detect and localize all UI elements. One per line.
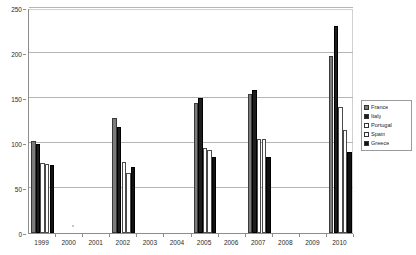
y-tick-label: 200 [11, 51, 22, 58]
gridline [29, 142, 353, 143]
bar-portugal-1999 [40, 163, 44, 233]
y-tick-label: 50 [15, 186, 22, 193]
bar-france-2010 [329, 56, 333, 233]
x-tick-label: 2005 [197, 239, 211, 246]
x-tick-mark [136, 234, 137, 237]
y-tick-label: 250 [11, 6, 22, 13]
bar-italy-1999 [36, 144, 40, 233]
y-tick-label: 100 [11, 141, 22, 148]
bar-spain-1999 [45, 164, 49, 233]
x-tick-label: 2007 [251, 239, 265, 246]
x-tick-mark [272, 234, 273, 237]
legend-swatch-icon [364, 123, 369, 128]
legend-item-label: Spain [371, 130, 385, 138]
x-tick-label: 2003 [143, 239, 157, 246]
x-tick-mark [163, 234, 164, 237]
bar-greece-1999 [50, 165, 54, 233]
x-tick-label: 2002 [116, 239, 130, 246]
x-tick-mark [109, 234, 110, 237]
legend-item-france[interactable]: France [364, 103, 409, 111]
gridline [29, 52, 353, 53]
bar-italy-2007 [252, 90, 256, 233]
bar-portugal-2007 [257, 139, 261, 233]
y-tick-label: 0 [18, 231, 22, 238]
x-tick-label: 2004 [170, 239, 184, 246]
y-tick-mark [23, 234, 26, 235]
legend-item-greece[interactable]: Greece [364, 139, 409, 147]
y-tick-mark [23, 99, 26, 100]
x-tick-label: 2006 [224, 239, 238, 246]
bar-france-2007 [248, 94, 252, 234]
bar-greece-2005 [212, 157, 216, 234]
legend-swatch-icon [364, 141, 369, 146]
y-axis: 050100150200250 [0, 9, 26, 234]
bar-portugal-2010 [338, 107, 342, 233]
legend-item-label: Greece [371, 139, 389, 147]
x-tick-mark [55, 234, 56, 237]
bar-greece-2010 [347, 152, 351, 233]
bar-italy-2005 [198, 98, 202, 233]
x-tick-mark [299, 234, 300, 237]
x-tick-label: 2001 [88, 239, 102, 246]
x-tick-label: 2008 [278, 239, 292, 246]
x-tick-label: 1999 [34, 239, 48, 246]
bar-france-2005 [194, 103, 198, 234]
bar-italy-2010 [334, 26, 338, 233]
plot-area [28, 9, 353, 234]
legend-item-label: Italy [371, 112, 381, 120]
bar-greece-2002 [131, 167, 135, 233]
x-tick-mark [245, 234, 246, 237]
gridline [29, 7, 353, 8]
y-tick-mark [23, 144, 26, 145]
x-tick-mark [353, 234, 354, 237]
bar-spain-2007 [262, 139, 266, 233]
bar-chart: 050100150200250 199920002001200220032004… [0, 0, 416, 255]
x-tick-label: 2010 [332, 239, 346, 246]
y-tick-label: 150 [11, 96, 22, 103]
chart-legend[interactable]: FranceItalyPortugalSpainGreece [361, 100, 412, 151]
chart-title-cropped [0, 0, 416, 2]
bar-greece-2007 [266, 157, 270, 234]
legend-swatch-icon [364, 105, 369, 110]
bar-france-2002 [112, 118, 116, 233]
bar-spain-2010 [343, 130, 347, 234]
legend-item-spain[interactable]: Spain [364, 130, 409, 138]
legend-item-label: France [371, 103, 388, 111]
bar-spain-2002 [126, 173, 130, 233]
bar-spain-2005 [207, 150, 211, 233]
x-tick-mark [82, 234, 83, 237]
y-tick-mark [23, 189, 26, 190]
gridline [29, 187, 353, 188]
legend-swatch-icon [364, 132, 369, 137]
x-tick-label: 2000 [61, 239, 75, 246]
x-tick-mark [326, 234, 327, 237]
x-tick-mark [191, 234, 192, 237]
plot-frame [29, 9, 353, 233]
stray-artifact-dot [72, 225, 74, 227]
x-tick-mark [218, 234, 219, 237]
bar-portugal-2005 [203, 148, 207, 233]
legend-swatch-icon [364, 114, 369, 119]
legend-item-italy[interactable]: Italy [364, 112, 409, 120]
gridline [29, 97, 353, 98]
y-tick-mark [23, 9, 26, 10]
x-axis: 1999200020012002200320042005200620072008… [28, 234, 353, 254]
bar-portugal-2002 [122, 162, 126, 233]
x-tick-label: 2009 [305, 239, 319, 246]
y-tick-mark [23, 54, 26, 55]
legend-item-label: Portugal [371, 121, 392, 129]
legend-item-portugal[interactable]: Portugal [364, 121, 409, 129]
bar-france-1999 [31, 141, 35, 233]
bar-italy-2002 [117, 127, 121, 233]
